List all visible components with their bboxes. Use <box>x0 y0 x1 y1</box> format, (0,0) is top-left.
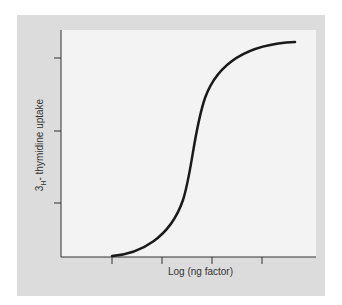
dose-response-curve <box>112 42 295 256</box>
chart-svg <box>0 0 342 305</box>
y-axis-label: 3H- thymidine uptake <box>34 99 47 191</box>
x-axis-label: Log (ng factor) <box>168 266 233 277</box>
